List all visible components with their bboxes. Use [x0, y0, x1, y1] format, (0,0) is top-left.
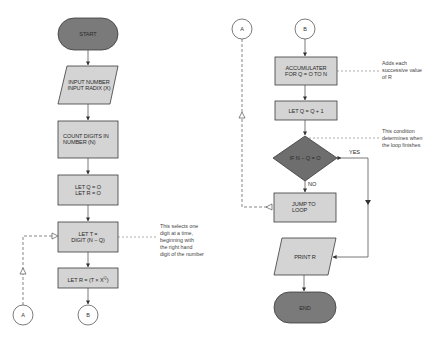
- yes-path-line: [333, 158, 368, 257]
- accumulator-label: ACCUMULATER FOR Q = O TO N: [275, 65, 337, 78]
- connector-b-left-label: B: [78, 312, 98, 318]
- input-label: INPUT NUMBER INPUT RADIX (X): [60, 79, 118, 92]
- decision-label: IF N − Q = O: [273, 155, 337, 161]
- note-condition: This condition determines when the loop …: [382, 128, 440, 149]
- let-t-label: LET T = DIGIT (N − Q): [58, 231, 118, 244]
- connector-a-left-label: A: [13, 312, 33, 318]
- note-selects-digit: This selects one digit at a time, beginn…: [160, 223, 235, 258]
- arrow-down-icon: [365, 200, 371, 205]
- jump-to-loop-label: JUMP TO LOOP: [292, 201, 332, 214]
- increment-label: LET Q = Q + 1: [275, 108, 337, 114]
- note-accumulator: Adds each successive value of R: [382, 60, 440, 81]
- init-label: LET Q = O LET R = O: [58, 184, 118, 197]
- flowchart-canvas: [0, 0, 440, 338]
- yes-label: YES: [349, 149, 360, 155]
- no-label: NO: [308, 181, 316, 187]
- let-r-close: ): [107, 277, 109, 283]
- open-arrow-up-icon: [239, 112, 245, 118]
- count-digits-label: COUNT DIGITS IN NUMBER (N): [63, 133, 118, 146]
- loop-return-dashed-line-right: [242, 39, 272, 207]
- let-r-label: LET R = (T × XQ): [58, 275, 118, 283]
- connector-a-right-label: A: [232, 26, 252, 32]
- open-arrow-up-icon: [20, 268, 26, 274]
- open-arrow-left-icon: [266, 204, 272, 210]
- end-label: END: [274, 305, 336, 311]
- print-label: PRINT R: [274, 254, 336, 260]
- connector-b-right-label: B: [295, 26, 315, 32]
- let-r-text: LET R = (T × X: [68, 277, 104, 283]
- start-label: START: [58, 31, 118, 37]
- loop-return-dashed-line-left: [23, 236, 56, 305]
